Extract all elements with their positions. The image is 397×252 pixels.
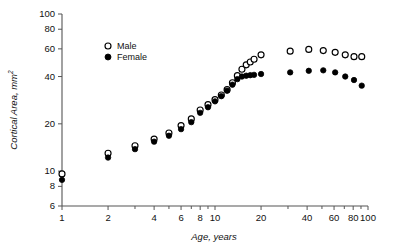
data-point — [105, 155, 110, 160]
y-axis-title: Cortical Area, mm2 — [7, 70, 19, 150]
y-tick-label: 8 — [50, 180, 55, 191]
data-point — [332, 49, 338, 55]
y-tick-label: 60 — [44, 43, 55, 54]
data-point — [59, 171, 65, 177]
data-point — [306, 46, 312, 52]
y-axis-title-group: Cortical Area, mm2 — [7, 70, 19, 150]
x-tick-label: 40 — [302, 212, 313, 223]
series-male-points — [59, 46, 365, 176]
legend-marker-female-icon — [105, 54, 111, 60]
data-point — [351, 54, 357, 60]
data-point — [224, 88, 229, 93]
data-point — [230, 82, 235, 87]
x-axis-ticks: 124681020406080100 — [59, 206, 376, 223]
y-tick-label: 100 — [39, 8, 55, 19]
x-tick-label: 10 — [210, 212, 221, 223]
data-point — [219, 93, 224, 98]
y-tick-label: 40 — [44, 71, 55, 82]
series-female-points — [59, 68, 364, 183]
legend-label-female: Female — [117, 52, 147, 62]
y-tick-label: 6 — [50, 200, 55, 211]
y-axis-ticks: 681020406080100 — [39, 8, 62, 211]
data-point — [178, 126, 183, 131]
x-tick-label: 1 — [59, 212, 64, 223]
x-tick-label: 2 — [105, 212, 110, 223]
data-point — [359, 54, 365, 60]
data-point — [251, 56, 257, 62]
data-point — [359, 83, 364, 88]
data-point — [320, 48, 326, 54]
data-point — [258, 52, 264, 58]
y-tick-label: 10 — [44, 165, 55, 176]
chart-container: 681020406080100 124681020406080100 Male … — [0, 0, 397, 252]
data-point — [189, 119, 194, 124]
data-point — [287, 48, 293, 54]
data-point — [59, 177, 64, 182]
chart-legend: Male Female — [105, 41, 147, 62]
x-axis-title: Age, years — [190, 231, 237, 242]
data-point — [342, 52, 348, 58]
data-point — [332, 70, 337, 75]
data-point — [258, 71, 263, 76]
data-point — [205, 105, 210, 110]
data-point — [343, 74, 348, 79]
cortical-area-scatter-plot: 681020406080100 124681020406080100 Male … — [0, 0, 397, 252]
data-point — [166, 133, 171, 138]
data-point — [287, 70, 292, 75]
legend-marker-male-icon — [105, 43, 111, 49]
y-tick-label: 80 — [44, 23, 55, 34]
data-point — [251, 72, 256, 77]
data-point — [151, 139, 156, 144]
x-tick-label: 6 — [178, 212, 183, 223]
x-tick-label: 60 — [329, 212, 340, 223]
x-tick-label: 4 — [151, 212, 156, 223]
x-tick-label: 20 — [256, 212, 267, 223]
data-point — [351, 77, 356, 82]
data-point — [306, 68, 311, 73]
x-tick-label: 80 — [348, 212, 359, 223]
data-point — [212, 99, 217, 104]
x-tick-label: 100 — [360, 212, 376, 223]
data-point — [197, 110, 202, 115]
data-point — [132, 146, 137, 151]
legend-label-male: Male — [117, 41, 137, 51]
data-point — [321, 68, 326, 73]
y-tick-label: 20 — [44, 118, 55, 129]
x-tick-label: 8 — [198, 212, 203, 223]
